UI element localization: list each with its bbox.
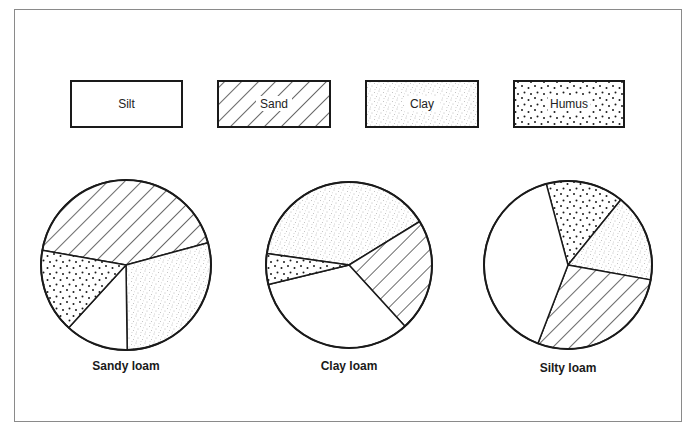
legend-label-silt: Silt <box>118 97 135 111</box>
pie-charts: Sandy loamClay loamSilty loam <box>41 180 652 375</box>
legend-label-humus: Humus <box>550 97 588 111</box>
pie-label-clay-loam: Clay loam <box>321 359 378 373</box>
legend-item-sand: Sand <box>218 81 330 127</box>
pie-label-sandy-loam: Sandy loam <box>92 359 159 373</box>
pie-label-silty-loam: Silty loam <box>540 361 597 375</box>
legend-label-sand: Sand <box>260 97 288 111</box>
pie-clay-loam: Clay loam <box>266 182 432 373</box>
legend-item-clay: Clay <box>366 81 478 127</box>
legend-item-silt: Silt <box>71 81 182 127</box>
legend: SiltSandClayHumus <box>71 81 624 127</box>
pie-silty-loam: Silty loam <box>484 181 652 375</box>
legend-item-humus: Humus <box>514 81 624 127</box>
legend-label-clay: Clay <box>410 97 434 111</box>
soil-composition-chart: SiltSandClayHumus Sandy loamClay loamSil… <box>0 0 693 432</box>
pie-sandy-loam: Sandy loam <box>41 180 211 373</box>
